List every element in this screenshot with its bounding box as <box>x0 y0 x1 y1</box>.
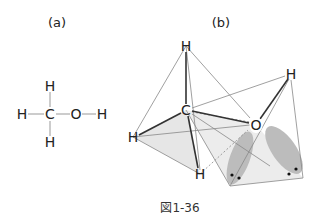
model-atom-h-right: H <box>286 67 297 81</box>
atom-o: O <box>70 107 81 121</box>
atom-h: H <box>97 107 108 121</box>
model-atom-h-left: H <box>128 130 139 144</box>
atom-h: H <box>45 135 56 149</box>
atom-h: H <box>45 79 56 93</box>
atom-c: C <box>45 107 55 121</box>
model-atom-h-bottom: H <box>195 167 206 181</box>
methanol-figure: (a) (b) <box>0 0 319 223</box>
model-atom-c: C <box>181 103 191 117</box>
model-atom-h-top: H <box>181 39 192 53</box>
model-atom-o: O <box>249 117 262 133</box>
atom-h: H <box>17 107 28 121</box>
figure-caption: 図1-36 <box>160 202 199 214</box>
